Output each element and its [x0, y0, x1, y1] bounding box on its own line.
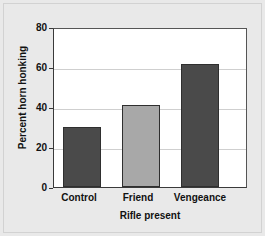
y-tick-label-20: 20	[19, 143, 47, 153]
chart-figure: Percent horn honking 80 60 40 20 0 Contr…	[0, 0, 265, 236]
x-axis-title: Rifle present	[53, 210, 247, 221]
bar-friend	[122, 105, 160, 187]
y-tick-label-80: 80	[19, 23, 47, 33]
plot-area	[53, 28, 247, 188]
bar-vengeance	[181, 64, 219, 187]
y-axis-tick-labels: 80 60 40 20 0	[13, 0, 47, 236]
y-tick-mark-0	[49, 188, 53, 189]
bar-control	[63, 127, 101, 187]
x-tick-label-vengeance: Vengeance	[161, 192, 239, 204]
y-tick-label-60: 60	[19, 63, 47, 73]
y-tick-label-40: 40	[19, 103, 47, 113]
